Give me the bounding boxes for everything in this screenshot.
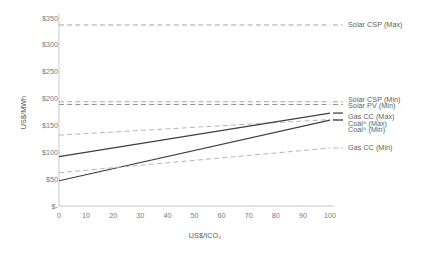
- legend-label-coal-min[interactable]: Coal^ (Min): [348, 125, 385, 134]
- chart-container: US$/MWh US$/tCO₂ $350$300$250$200$150$10…: [0, 0, 436, 256]
- series-line-gas-cc-max: [59, 120, 330, 136]
- legend-label-gas-cc-min[interactable]: Gas CC (Min): [348, 143, 393, 152]
- legend-label-solar-pv-min[interactable]: Solar PV (Min): [348, 101, 395, 110]
- legend-label-solar-csp-max[interactable]: Solar CSP (Max): [348, 20, 403, 29]
- series-line-gas-cc-min: [59, 148, 330, 173]
